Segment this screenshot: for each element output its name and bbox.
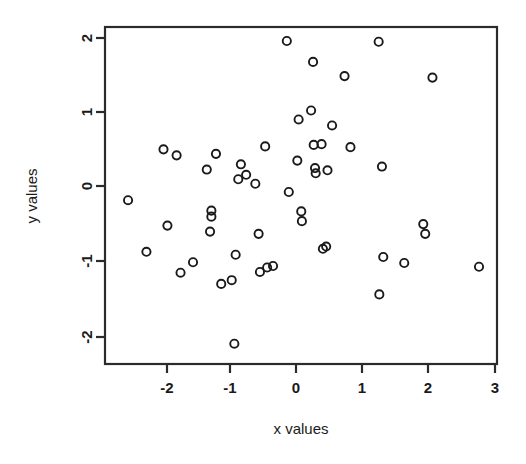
data-point [237,160,245,168]
data-point [346,143,354,151]
data-point [230,340,238,348]
y-axis-ticks [96,38,105,337]
data-point [475,263,483,271]
data-point [293,156,301,164]
data-point [232,251,240,259]
data-point [228,276,236,284]
data-point [206,228,214,236]
x-tick-label-neg2: -2 [160,379,173,396]
x-tick-label-2: 2 [424,379,432,396]
data-point [328,121,336,129]
y-axis-title: y values [23,168,40,223]
data-point [163,222,171,230]
y-tick-label-1: 1 [78,108,95,116]
data-points-layer [124,37,483,348]
data-point [400,259,408,267]
scatter-plot-figure: 2 1 0 -1 -2 -2 -1 0 1 2 3 x values y val… [0,0,526,464]
data-point [285,188,293,196]
data-point [124,196,132,204]
x-axis-tick-labels: -2 -1 0 1 2 3 [160,379,499,396]
data-point [242,171,250,179]
data-point [375,38,383,46]
data-point [159,145,167,153]
data-point [217,280,225,288]
y-tick-label-neg2: -2 [78,330,95,343]
data-point [212,150,220,158]
data-point [203,165,211,173]
data-point [428,74,436,82]
data-point [419,220,427,228]
data-point [312,169,320,177]
data-point [207,213,215,221]
plot-frame [105,27,497,364]
data-point [375,290,383,298]
data-point [283,37,291,45]
data-point [379,253,387,261]
x-tick-label-1: 1 [358,379,366,396]
y-tick-label-2: 2 [78,34,95,42]
data-point [310,141,318,149]
y-axis-tick-labels: 2 1 0 -1 -2 [78,34,95,344]
data-point [323,166,331,174]
data-point [295,115,303,123]
data-point [317,140,325,148]
x-axis-title: x values [273,420,328,437]
data-point [142,248,150,256]
data-point [297,207,305,215]
x-tick-label-neg1: -1 [223,379,236,396]
data-point [298,217,306,225]
data-point [309,58,317,66]
data-point [378,162,386,170]
x-tick-label-0: 0 [292,379,300,396]
data-point [255,230,263,238]
data-point [176,269,184,277]
y-tick-label-0: 0 [78,182,95,190]
x-tick-label-3: 3 [491,379,499,396]
data-point [189,258,197,266]
x-axis-ticks [167,364,495,373]
data-point [340,72,348,80]
y-tick-label-neg1: -1 [78,254,95,267]
data-point [251,180,259,188]
data-point [173,151,181,159]
data-point [261,142,269,150]
data-point [234,175,242,183]
data-point [307,106,315,114]
data-point [421,230,429,238]
plot-canvas: 2 1 0 -1 -2 -2 -1 0 1 2 3 x values y val… [0,0,526,464]
